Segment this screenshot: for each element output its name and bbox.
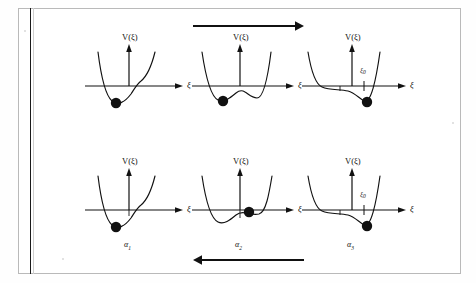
v-axis-label-top-center: V(ξ)	[233, 32, 249, 42]
scan-speck	[24, 30, 26, 32]
xi0-marker-label-bottom-right: ξ0	[360, 190, 366, 199]
v-axis-label-bottom-left: V(ξ)	[122, 156, 138, 166]
alpha-label-bottom-left: α1	[124, 240, 131, 251]
scanned-page: V(ξ) ξ V(ξ) ξ	[0, 0, 476, 283]
alpha-label-bottom-right: α3	[347, 240, 354, 251]
figure-area: V(ξ) ξ V(ξ) ξ	[36, 8, 461, 274]
v-axis-label-top-right: V(ξ)	[345, 32, 361, 42]
panel-top-right: V(ξ) ξ ξ0	[294, 28, 426, 136]
book-binding-shadow	[33, 8, 34, 274]
v-axis-label-bottom-right: V(ξ)	[345, 156, 361, 166]
v-axis-label-bottom-center: V(ξ)	[233, 156, 249, 166]
xi-axis-label-bottom-right: ξ	[410, 204, 414, 214]
panel-bottom-right: V(ξ) ξ ξ0 α3	[294, 148, 426, 256]
alpha-label-bottom-center: α2	[235, 240, 242, 251]
v-axis-label-top-left: V(ξ)	[122, 32, 138, 42]
book-binding-line	[30, 8, 31, 274]
xi-axis-label-top-right: ξ	[410, 80, 414, 90]
xi0-marker-label-top-right: ξ0	[360, 66, 366, 75]
